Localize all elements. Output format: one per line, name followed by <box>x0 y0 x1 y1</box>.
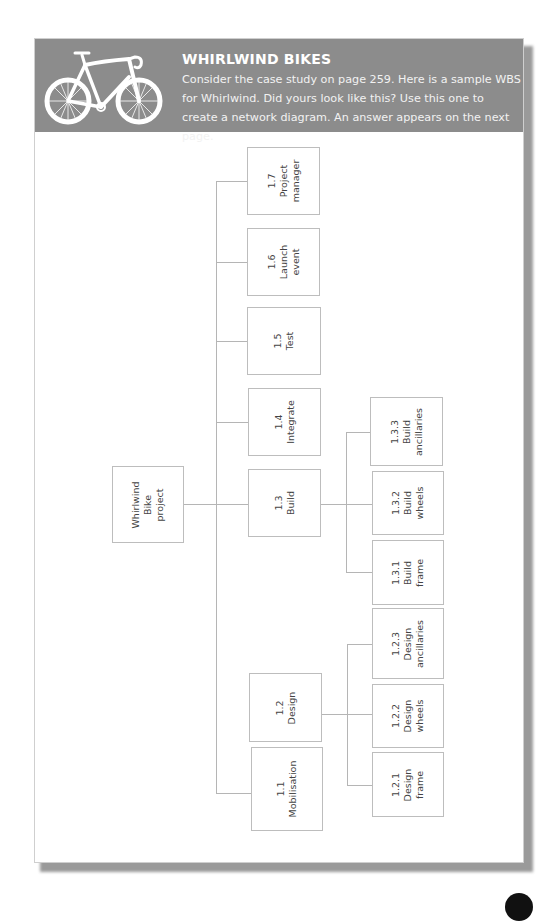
page-number-tab <box>505 893 533 921</box>
connector-1-3 <box>216 504 248 505</box>
wbs-node-1-3-1: 1.3.1 Build frame <box>372 540 444 605</box>
connector-1-6 <box>216 262 247 263</box>
bicycle-icon <box>43 47 165 127</box>
wbs-node-1-2: 1.2 Design <box>249 673 322 742</box>
case-study-description: Consider the case study on page 259. Her… <box>182 70 522 146</box>
connector-1-2-3 <box>347 644 372 645</box>
connector-build-spine <box>346 432 347 573</box>
connector-1-3-1 <box>346 572 372 573</box>
panel-header: WHIRLWIND BIKES Consider the case study … <box>35 39 523 132</box>
case-study-title: WHIRLWIND BIKES <box>182 51 331 67</box>
connector-1-7 <box>216 181 247 182</box>
wbs-node-1-6: 1.6 Launch event <box>247 228 320 296</box>
connector-spine <box>216 181 217 794</box>
connector-1-3-3 <box>346 432 370 433</box>
wbs-node-1-2-3: 1.2.3 Design ancillaries <box>372 608 444 679</box>
wbs-node-1-2-1: 1.2.1 Design frame <box>372 752 444 817</box>
wbs-node-1-3-3: 1.3.3 Build ancillaries <box>370 397 443 466</box>
connector-1-1 <box>216 793 251 794</box>
wbs-node-1-3: 1.3 Build <box>248 469 321 537</box>
wbs-node-1-1: 1.1 Mobilisation <box>251 747 323 831</box>
wbs-node-root: Whirlwind Bike project <box>112 466 184 543</box>
wbs-node-1-4: 1.4 Integrate <box>248 388 321 456</box>
wbs-node-1-7: 1.7 Project manager <box>247 147 320 215</box>
wbs-node-1-2-2: 1.2.2 Design wheels <box>372 684 444 748</box>
connector-root-to-spine <box>184 504 217 505</box>
wbs-node-1-5: 1.5 Test <box>247 307 321 375</box>
connector-1-2-1 <box>347 785 372 786</box>
connector-1-5 <box>216 341 247 342</box>
connector-design-spine <box>347 644 348 786</box>
connector-1-4 <box>216 422 248 423</box>
wbs-node-1-3-2: 1.3.2 Build wheels <box>372 471 444 535</box>
